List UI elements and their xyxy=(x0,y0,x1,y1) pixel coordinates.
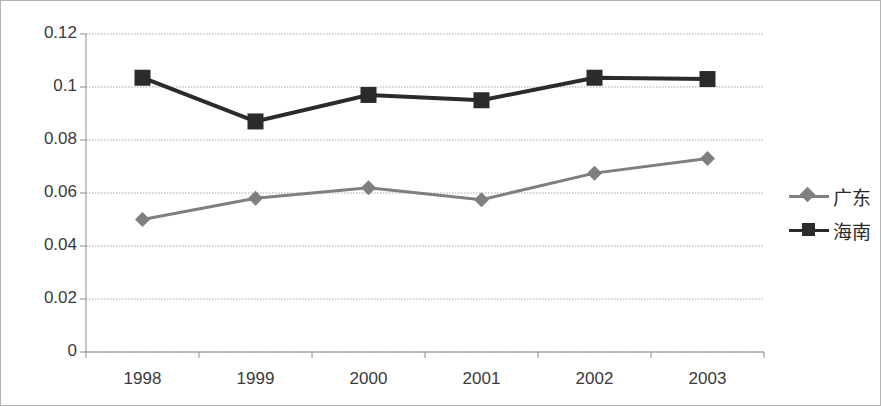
data-point-square[interactable] xyxy=(248,113,264,129)
y-tick-label: 0 xyxy=(15,341,77,361)
series-line-0 xyxy=(143,159,708,220)
legend-marker-square-icon xyxy=(789,220,829,240)
x-tick-label: 2001 xyxy=(427,369,537,389)
data-point-diamond[interactable] xyxy=(474,192,489,207)
x-axis-ticks xyxy=(86,352,764,358)
legend-marker-diamond-icon xyxy=(789,186,829,206)
data-point-square[interactable] xyxy=(700,71,716,87)
x-tick-label: 2002 xyxy=(540,369,650,389)
y-tick-label: 0.08 xyxy=(15,129,77,149)
data-point-square[interactable] xyxy=(135,70,151,86)
x-tick-label: 2000 xyxy=(314,369,424,389)
x-tick-label: 2003 xyxy=(653,369,763,389)
chart-container: 0.120.10.080.060.040.020 199819992000200… xyxy=(0,0,881,406)
data-point-square[interactable] xyxy=(474,92,490,108)
legend-label-guangdong: 广东 xyxy=(833,183,871,210)
legend-label-hainan: 海南 xyxy=(833,217,871,244)
legend-item-guangdong[interactable]: 广东 xyxy=(789,179,877,213)
x-tick-label: 1999 xyxy=(201,369,311,389)
y-tick-label: 0.1 xyxy=(15,76,77,96)
y-tick-label: 0.04 xyxy=(15,235,77,255)
data-point-diamond[interactable] xyxy=(587,166,602,181)
series-line-1 xyxy=(143,78,708,122)
y-tick-label: 0.06 xyxy=(15,182,77,202)
legend-item-hainan[interactable]: 海南 xyxy=(789,213,877,247)
x-tick-label: 1998 xyxy=(88,369,198,389)
data-series-layer xyxy=(135,70,716,227)
data-point-square[interactable] xyxy=(361,87,377,103)
data-point-square[interactable] xyxy=(587,70,603,86)
data-point-diamond[interactable] xyxy=(700,151,715,166)
chart-legend: 广东 海南 xyxy=(789,179,877,247)
y-tick-label: 0.12 xyxy=(15,23,77,43)
y-tick-label: 0.02 xyxy=(15,288,77,308)
data-point-diamond[interactable] xyxy=(135,212,150,227)
line-chart-plot xyxy=(1,1,881,406)
